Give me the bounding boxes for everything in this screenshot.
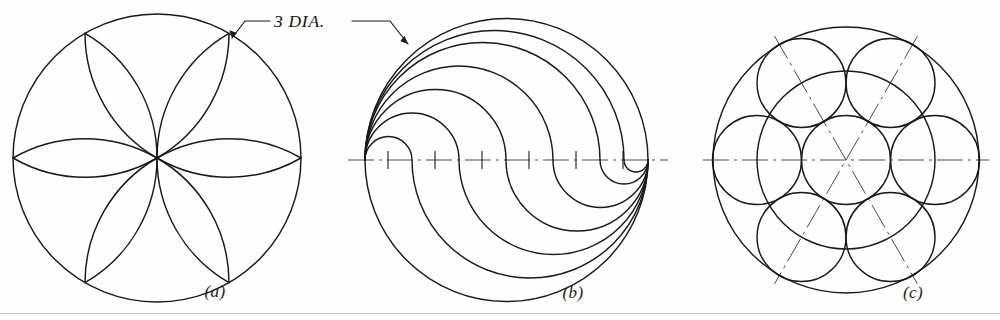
drawing-sheet: (a) 3 DIA. <box>0 0 1000 320</box>
arc-a-3 <box>157 158 301 177</box>
figure-c: (c) <box>703 27 989 302</box>
ogee-curve-2 <box>365 113 648 254</box>
leader-line-to-figure-b <box>352 21 408 44</box>
dimension-callout: 3 DIA. <box>230 11 409 44</box>
figure-a-petal-arcs <box>13 33 301 282</box>
arc-a-6 <box>13 158 157 177</box>
figure-a: (a) <box>13 14 301 302</box>
arc-a-12 <box>157 139 301 158</box>
dimension-label-3-dia: 3 DIA. <box>273 11 325 31</box>
figure-b: (b) <box>348 19 668 303</box>
figure-b-label: (b) <box>562 283 583 302</box>
arc-a-9 <box>13 139 157 158</box>
figure-c-label: (c) <box>903 283 923 302</box>
figure-b-ogee-curves <box>365 30 648 278</box>
leader-arrowhead-b <box>400 36 408 44</box>
ogee-curve-6 <box>365 30 648 172</box>
leader-line-to-figure-a <box>232 21 270 38</box>
drawing-canvas: (a) 3 DIA. <box>0 0 1000 320</box>
figure-a-label: (a) <box>204 282 225 301</box>
ogee-curve-4 <box>365 66 648 207</box>
